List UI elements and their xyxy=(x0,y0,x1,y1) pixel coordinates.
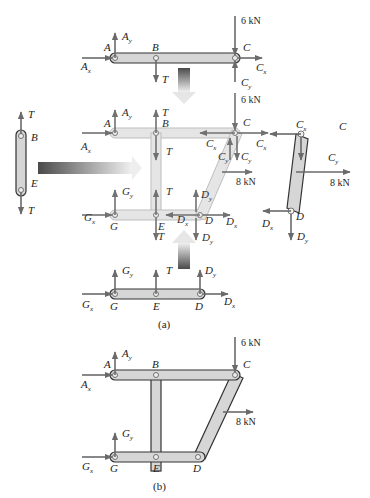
svg-text:E: E xyxy=(30,177,38,189)
svg-text:Cy: Cy xyxy=(328,151,339,166)
svg-text:Gy: Gy xyxy=(122,427,134,442)
svg-text:Cx: Cx xyxy=(256,61,267,76)
svg-text:Dx: Dx xyxy=(261,217,274,232)
svg-text:Gy: Gy xyxy=(122,264,134,279)
svg-text:Cy: Cy xyxy=(241,76,252,91)
svg-text:8 kN: 8 kN xyxy=(236,176,256,187)
svg-text:Gx: Gx xyxy=(82,298,94,313)
svg-text:D: D xyxy=(194,300,203,312)
svg-text:G: G xyxy=(110,220,118,232)
svg-text:T: T xyxy=(28,108,35,120)
svg-text:Dy: Dy xyxy=(204,264,217,279)
svg-text:T: T xyxy=(166,264,173,276)
svg-text:T: T xyxy=(166,145,173,157)
fbd-member-ged: Gy T Dy Gx G E D Dx (a) xyxy=(82,264,236,331)
svg-text:Dx: Dx xyxy=(225,215,238,230)
svg-text:T: T xyxy=(28,204,35,216)
svg-text:C: C xyxy=(339,120,347,132)
fbd-member-cd: Cx C Cy 8 kN D Dx Dy xyxy=(261,118,350,245)
transfer-arrow-down xyxy=(178,68,190,92)
svg-text:Ay: Ay xyxy=(121,106,133,121)
frame-diagram: A Ay Ax B T 6 kN C Cx Cy xyxy=(0,0,370,498)
svg-text:Gy: Gy xyxy=(122,185,134,200)
transfer-arrow-up xyxy=(178,243,190,269)
svg-text:Ay: Ay xyxy=(121,347,133,362)
svg-text:6 kN: 6 kN xyxy=(241,337,261,348)
svg-text:B: B xyxy=(162,117,169,129)
svg-text:Dy: Dy xyxy=(296,230,309,245)
svg-text:Ax: Ax xyxy=(80,140,92,155)
svg-text:C: C xyxy=(243,358,251,370)
fbd-member-abc: A Ay Ax B T 6 kN C Cx Cy xyxy=(80,15,267,91)
svg-text:D: D xyxy=(192,462,201,474)
svg-text:T: T xyxy=(158,230,165,242)
transfer-arrow-right xyxy=(38,162,132,174)
svg-text:Dx: Dx xyxy=(223,295,236,310)
svg-text:D: D xyxy=(204,214,213,226)
svg-text:Cx: Cx xyxy=(256,137,267,152)
svg-text:Gx: Gx xyxy=(82,460,94,475)
load-6kn: 6 kN xyxy=(241,15,261,26)
label-c: C xyxy=(243,41,251,53)
svg-text:B: B xyxy=(152,358,159,370)
svg-text:Gx: Gx xyxy=(84,211,96,226)
svg-text:8 kN: 8 kN xyxy=(330,177,350,188)
caption-b: (b) xyxy=(153,480,166,493)
svg-text:Cx: Cx xyxy=(206,137,217,152)
svg-text:G: G xyxy=(110,300,118,312)
svg-text:Dy: Dy xyxy=(201,231,214,246)
svg-text:T: T xyxy=(166,185,173,197)
svg-text:Cy: Cy xyxy=(241,150,252,165)
svg-text:A: A xyxy=(103,358,111,370)
svg-text:D: D xyxy=(295,210,304,222)
svg-text:6 kN: 6 kN xyxy=(241,94,261,105)
svg-text:G: G xyxy=(110,462,118,474)
svg-text:Ay: Ay xyxy=(121,30,133,45)
svg-text:E: E xyxy=(152,300,160,312)
svg-text:Ax: Ax xyxy=(80,378,92,393)
svg-text:A: A xyxy=(103,117,111,129)
svg-text:C: C xyxy=(243,116,251,128)
svg-text:8 kN: 8 kN xyxy=(236,416,256,427)
caption-a: (a) xyxy=(158,318,171,331)
svg-text:B: B xyxy=(31,131,38,143)
label-a: A xyxy=(103,41,111,53)
fbd-member-be: T B E T xyxy=(16,108,38,216)
frame-assembled: A Ay Ax B 6 kN C 8 kN Gy Gx G E D (b) xyxy=(80,337,261,493)
svg-text:Ax: Ax xyxy=(80,60,92,75)
label-t: T xyxy=(162,73,169,85)
svg-text:E: E xyxy=(152,462,160,474)
label-b: B xyxy=(152,41,159,53)
